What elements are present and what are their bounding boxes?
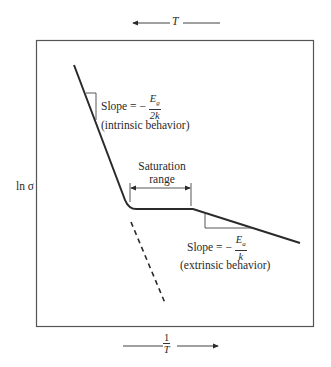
conductivity-curve	[74, 65, 300, 243]
bottom-axis-label: 1 T	[163, 332, 170, 355]
intrinsic-slope-sub: g	[156, 99, 160, 107]
extrinsic-caption: (extrinsic behavior)	[180, 259, 270, 272]
saturation-label-line2: range	[137, 173, 187, 186]
bottom-axis-denominator: T	[164, 344, 170, 355]
y-axis-label: ln σ	[16, 180, 34, 193]
extrinsic-slope-label: Slope = − Ea k	[187, 234, 247, 262]
intrinsic-extrapolation-dashed	[131, 222, 165, 303]
saturation-label-line1: Saturation	[137, 160, 187, 173]
intrinsic-slope-triangle	[86, 93, 96, 120]
intrinsic-slope-label: Slope = − Eg 2k	[101, 93, 161, 121]
intrinsic-caption: (intrinsic behavior)	[101, 119, 189, 132]
intrinsic-slope-prefix: Slope = −	[101, 100, 146, 112]
extrinsic-slope-sub: a	[242, 240, 246, 248]
top-axis-label: T	[172, 15, 178, 28]
bottom-axis-numerator: 1	[163, 332, 170, 344]
extrinsic-slope-prefix: Slope = −	[187, 241, 232, 253]
